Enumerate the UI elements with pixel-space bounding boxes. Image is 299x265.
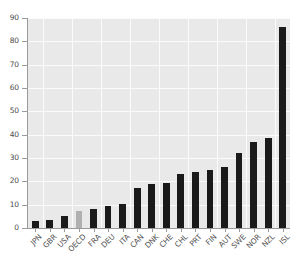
bar-ita xyxy=(119,204,126,229)
y-axis-tick-label: 90 xyxy=(0,14,19,22)
x-axis-tick xyxy=(210,229,211,232)
bar-deu xyxy=(105,206,112,228)
bar-aut xyxy=(221,167,228,228)
y-axis-tick-label: 20 xyxy=(0,177,19,185)
x-axis-tick xyxy=(50,229,51,232)
y-axis-line xyxy=(27,18,28,229)
x-axis-tick xyxy=(137,229,138,232)
bar-jpn xyxy=(32,221,39,228)
bar-chart-figure: 0102030405060708090 JPNGBRUSAOECDFRADEUI… xyxy=(0,0,299,265)
x-axis-tick-label-swe: SWE xyxy=(230,233,247,250)
gridline-vertical xyxy=(101,18,102,228)
gridline-vertical xyxy=(246,18,247,228)
y-axis-tick xyxy=(22,88,27,89)
bar-fra xyxy=(90,209,97,228)
x-axis-tick-label-aut: AUT xyxy=(217,233,233,249)
x-axis-tick-label-nzl: NZL xyxy=(261,233,277,249)
gridline-vertical xyxy=(159,18,160,228)
y-axis-tick-label: 30 xyxy=(0,154,19,162)
gridline-vertical xyxy=(188,18,189,228)
bar-swe xyxy=(236,153,243,228)
gridline-vertical xyxy=(43,18,44,228)
y-axis-tick xyxy=(22,205,27,206)
y-axis-tick xyxy=(22,181,27,182)
x-axis-tick xyxy=(94,229,95,232)
bar-nor xyxy=(250,142,257,228)
x-axis-tick-label-fin: FIN xyxy=(205,233,219,247)
y-axis-tick xyxy=(22,135,27,136)
y-axis-tick xyxy=(22,65,27,66)
y-axis-tick xyxy=(22,228,27,229)
x-axis-tick xyxy=(181,229,182,232)
y-axis-tick-label: 70 xyxy=(0,61,19,69)
bar-oecd xyxy=(76,211,83,229)
x-axis-tick-label-isl: ISL xyxy=(278,233,291,246)
bar-dnk xyxy=(148,184,155,228)
x-axis-tick xyxy=(225,229,226,232)
x-axis-tick-label-fra: FRA xyxy=(87,233,102,248)
bar-isl xyxy=(279,27,286,228)
bar-chl xyxy=(177,174,184,228)
x-axis-tick xyxy=(268,229,269,232)
x-axis-tick xyxy=(239,229,240,232)
gridline-vertical xyxy=(130,18,131,228)
bar-gbr xyxy=(46,220,53,228)
x-axis-tick xyxy=(283,229,284,232)
x-axis-tick-label-deu: DEU xyxy=(100,233,116,249)
y-axis-tick xyxy=(22,18,27,19)
y-axis-tick-label: 80 xyxy=(0,37,19,45)
bar-can xyxy=(134,188,141,228)
y-axis-tick-label: 0 xyxy=(0,224,19,232)
bar-nzl xyxy=(265,138,272,228)
x-axis-tick xyxy=(79,229,80,232)
bar-che xyxy=(163,183,170,229)
y-axis-tick xyxy=(22,158,27,159)
y-axis-tick xyxy=(22,111,27,112)
bar-fin xyxy=(207,170,214,228)
x-axis-tick xyxy=(123,229,124,232)
bar-prt xyxy=(192,172,199,228)
gridline-vertical xyxy=(72,18,73,228)
y-axis-tick-label: 40 xyxy=(0,131,19,139)
gridline-vertical xyxy=(275,18,276,228)
x-axis-tick-label-che: CHE xyxy=(158,233,174,249)
x-axis-tick xyxy=(254,229,255,232)
y-axis-tick-label: 10 xyxy=(0,201,19,209)
gridline-vertical xyxy=(217,18,218,228)
x-axis-tick xyxy=(108,229,109,232)
bar-usa xyxy=(61,216,68,228)
x-axis-tick-label-can: CAN xyxy=(129,233,145,249)
x-axis-tick-label-prt: PRT xyxy=(189,233,204,248)
y-axis-tick-label: 60 xyxy=(0,84,19,92)
y-axis-tick xyxy=(22,41,27,42)
x-axis-line xyxy=(27,228,290,229)
y-axis-tick-label: 50 xyxy=(0,107,19,115)
x-axis-tick xyxy=(152,229,153,232)
